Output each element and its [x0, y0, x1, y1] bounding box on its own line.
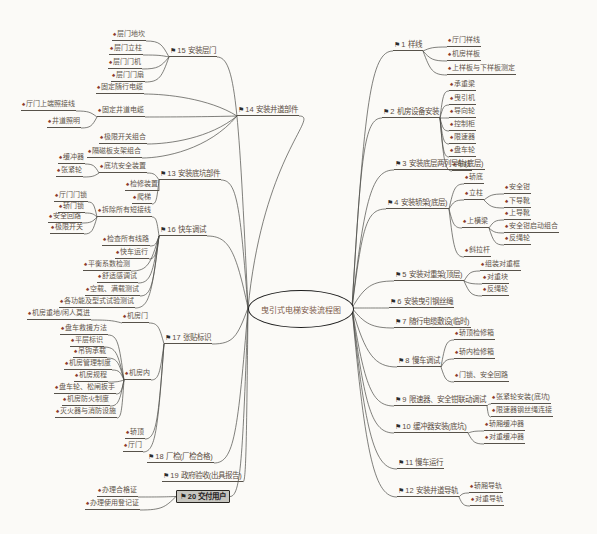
mindmap-node-n16a[interactable]: ♠拆除所有短接线: [97, 205, 152, 217]
mindmap-node-n8a[interactable]: ♠轿顶检修箱: [454, 328, 495, 340]
mindmap-node-n13[interactable]: ⚑13 安装底坑部件: [159, 169, 221, 180]
mindmap-node-n16f[interactable]: ♠空载、满载测试: [85, 284, 140, 296]
mindmap-node-n15[interactable]: ⚑15 安装层门: [169, 46, 217, 57]
mindmap-node-n1a[interactable]: ♠厅门样线: [447, 35, 481, 47]
mindmap-node-n13b[interactable]: ♠检修装置: [125, 179, 159, 191]
mindmap-node-n1b[interactable]: ♠机房样板: [447, 49, 481, 61]
node-label: 盘车救援方法: [65, 324, 107, 331]
mindmap-node-n17b[interactable]: ♠机房内: [124, 368, 151, 380]
mindmap-node-n15b[interactable]: ♠层门立柱: [109, 43, 143, 55]
mindmap-node-n14a[interactable]: ♠固定随行电缆: [96, 82, 144, 94]
mindmap-node-n17b4[interactable]: ♠机房管理制度: [64, 358, 112, 370]
mindmap-node-n2e[interactable]: ♠限速器: [449, 132, 476, 144]
mindmap-node-n4c2[interactable]: ♠安全钳启动组合: [504, 221, 559, 233]
mindmap-node-n9b[interactable]: ♠限速器钢丝绳连接: [491, 405, 553, 417]
mindmap-node-n4a[interactable]: ♠轿底: [464, 172, 484, 184]
mindmap-node-n16b[interactable]: ♠检查所有线路: [102, 234, 150, 246]
mindmap-node-n12b[interactable]: ♠对重导轨: [470, 494, 504, 506]
mindmap-node-n14b2[interactable]: ♠井道照明: [47, 116, 81, 128]
mindmap-node-n9a[interactable]: ♠张紧轮安装(底坑): [491, 392, 551, 404]
mindmap-node-n10b[interactable]: ♠对重缓冲器: [484, 432, 525, 444]
mindmap-node-n17b6[interactable]: ♠盘车轮、松闸扳手: [54, 382, 116, 394]
mindmap-node-n5a[interactable]: ♠组装对重框: [480, 259, 521, 271]
mindmap-node-n7[interactable]: ⚑7 随行电缆敷设(临时): [394, 317, 471, 328]
mindmap-node-n15a[interactable]: ♠层门地坎: [112, 29, 146, 41]
mindmap-node-n13a[interactable]: ♠底坑安全装置: [99, 161, 147, 173]
mindmap-node-n17b5[interactable]: ♠机房规程: [74, 370, 108, 382]
mindmap-node-n4c[interactable]: ♠上横梁: [462, 216, 489, 228]
mindmap-node-n4d[interactable]: ♠斜拉杆: [464, 245, 491, 257]
node-label: 机房重地/闲人莫进: [32, 309, 90, 316]
mindmap-node-n18[interactable]: ⚑18 厂检(厂检合格): [147, 452, 214, 463]
mindmap-node-n1c[interactable]: ♠上样板与下样板测定: [447, 63, 516, 75]
mindmap-node-n2f[interactable]: ♠盘车轮: [449, 145, 476, 157]
mindmap-node-n5c[interactable]: ♠反绳轮: [482, 284, 509, 296]
mindmap-node-n16a4[interactable]: ♠极限开关: [50, 222, 84, 234]
mindmap-node-n8c[interactable]: ♠门锁、安全回路: [454, 370, 509, 382]
pin-icon: ♠: [505, 183, 508, 192]
mindmap-node-n16g[interactable]: ♠各功能及型式试验测试: [59, 296, 135, 308]
mindmap-node-n12a[interactable]: ♠轿厢导轨: [469, 481, 503, 493]
mindmap-node-n6[interactable]: ⚑6 安装曳引钢丝绳: [389, 297, 454, 308]
mindmap-node-n16c[interactable]: ♠快车运行: [115, 247, 149, 259]
mindmap-node-n16e[interactable]: ♠舒适感调试: [97, 271, 138, 283]
mindmap-node-n2b[interactable]: ♠曳引机: [449, 93, 476, 105]
mindmap-node-n16[interactable]: ⚑16 快车调试: [159, 225, 207, 236]
mindmap-node-n13a1[interactable]: ♠缓冲器: [58, 152, 85, 164]
mindmap-node-n14[interactable]: ⚑14 安装井道部件: [237, 105, 299, 116]
mindmap-node-n4b[interactable]: ♠立柱: [464, 188, 484, 200]
mindmap-node-n11[interactable]: ⚑11 慢车运行: [397, 458, 444, 469]
mindmap-node-n4[interactable]: ⚑4 安装轿架(底层): [386, 198, 449, 209]
mindmap-node-n1[interactable]: ⚑1 样线: [393, 40, 423, 51]
mindmap-node-n12[interactable]: ⚑12 安装井道导轨: [397, 486, 459, 497]
mindmap-node-n20a[interactable]: ♠办理合格证: [97, 485, 138, 497]
mindmap-node-n4c1[interactable]: ♠上导靴: [504, 208, 531, 220]
pin-icon: ♠: [49, 212, 52, 221]
pin-icon: ♠: [116, 248, 119, 257]
node-label: 14 安装井道部件: [245, 105, 297, 114]
mindmap-node-n8[interactable]: ⚑8 慢车调试: [397, 356, 441, 367]
mindmap-node-n17b3[interactable]: ♠吊钩承载: [73, 346, 107, 358]
central-topic[interactable]: 曳引式电梯安装流程图: [248, 290, 354, 328]
mindmap-node-n17d[interactable]: ♠厅门: [123, 440, 143, 452]
flag-icon: ⚑: [398, 458, 404, 467]
mindmap-node-n14b[interactable]: ♠固定井道电缆: [97, 105, 145, 117]
mindmap-node-n13c[interactable]: ♠爬梯: [132, 192, 152, 204]
mindmap-node-n5[interactable]: ⚑5 安装对重架(顶层): [394, 270, 464, 281]
mindmap-node-n3[interactable]: ⚑3 安装底层两列导轨(底层): [394, 159, 485, 170]
mindmap-node-n13a2[interactable]: ♠张紧轮: [56, 165, 83, 177]
mindmap-node-n15d[interactable]: ♠层门门扇: [111, 70, 145, 82]
mindmap-node-n15c[interactable]: ♠层门门机: [108, 57, 142, 69]
mindmap-node-n9[interactable]: ⚑9 限速器、安全钳联动调试: [394, 395, 487, 406]
mindmap-node-n17a[interactable]: ♠机房门: [122, 311, 149, 323]
mindmap-node-n14b1[interactable]: ♠厅门上端照接线: [21, 99, 76, 111]
mindmap-node-n4c3[interactable]: ♠反绳轮: [504, 233, 531, 245]
mindmap-node-n20b[interactable]: ♠办理使用登记证: [85, 498, 140, 510]
mindmap-node-n17b8[interactable]: ♠灭火器与消防设施: [55, 406, 117, 418]
mindmap-node-n17b7[interactable]: ♠机房防火制度: [62, 394, 110, 406]
mindmap-node-n8b[interactable]: ♠轿内检修箱: [454, 347, 495, 359]
node-label: 导向轮: [454, 107, 475, 114]
mindmap-node-n17[interactable]: ⚑17 张贴标识: [164, 333, 212, 344]
node-label: 井道照明: [52, 117, 80, 124]
flag-icon: ⚑: [383, 107, 389, 116]
mindmap-node-n20[interactable]: ⚑20 交付用户: [176, 490, 230, 503]
mindmap-node-n2d[interactable]: ♠控制柜: [449, 119, 476, 131]
mindmap-node-n19[interactable]: ⚑19 政府验收(出具报告): [162, 471, 243, 482]
mindmap-node-n2[interactable]: ⚑2 机房设备安装: [382, 107, 440, 118]
mindmap-node-n14d[interactable]: ♠隔磁板支架组合: [87, 146, 142, 158]
mindmap-node-n17b1[interactable]: ♠盘车救援方法: [60, 323, 108, 335]
mindmap-node-n16d[interactable]: ♠平衡系数检测: [83, 259, 131, 271]
mindmap-node-n17c[interactable]: ♠轿顶: [125, 427, 145, 439]
mindmap-node-n10[interactable]: ⚑10 缓冲器安装(底坑): [394, 422, 468, 433]
pin-icon: ♠: [124, 441, 127, 450]
mindmap-node-n4b1[interactable]: ♠安全钳: [504, 182, 531, 194]
mindmap-node-n5b[interactable]: ♠对重块: [482, 272, 509, 284]
mindmap-node-n10a[interactable]: ♠轿厢缓冲器: [484, 419, 525, 431]
mindmap-node-n4b2[interactable]: ♠下导靴: [504, 196, 531, 208]
pin-icon: ♠: [65, 359, 68, 368]
mindmap-node-n2c[interactable]: ♠导向轮: [449, 106, 476, 118]
mindmap-node-n17a1[interactable]: ♠机房重地/闲人莫进: [27, 308, 91, 320]
mindmap-node-n2a[interactable]: ♠承重梁: [449, 79, 476, 91]
mindmap-node-n14c[interactable]: ♠极限开关组合: [99, 132, 147, 144]
